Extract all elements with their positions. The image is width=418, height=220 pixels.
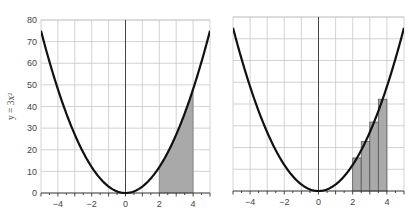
y-tick-label: 10 — [27, 167, 37, 177]
y-tick-label: 50 — [27, 80, 37, 90]
y-tick-label: 20 — [27, 145, 37, 155]
y-tick-label: 30 — [27, 123, 37, 133]
x-tick-label: −4 — [53, 199, 63, 209]
x-tick-label: 0 — [123, 199, 128, 209]
y-tick-label: 70 — [27, 37, 37, 47]
y-tick-label: 60 — [27, 58, 37, 68]
x-tick-label: 4 — [191, 199, 196, 209]
y-tick-label: 0 — [32, 188, 37, 198]
x-tick-label: −2 — [87, 199, 97, 209]
y-tick-label: 40 — [27, 102, 37, 112]
y-axis-label: y = 3x² — [6, 93, 16, 120]
x-tick-label: −2 — [279, 197, 289, 207]
x-tick-label: 0 — [316, 197, 321, 207]
figure: −4−202401020304050607080y = 3x² −4−2024 — [0, 0, 418, 220]
left-plot-area-under-curve: −4−202401020304050607080y = 3x² — [6, 15, 210, 209]
x-tick-label: 2 — [350, 197, 355, 207]
riemann-rectangle — [370, 122, 379, 191]
riemann-rectangle — [378, 99, 387, 191]
x-tick-label: 2 — [157, 199, 162, 209]
x-tick-label: −4 — [245, 197, 255, 207]
chart-canvas: −4−202401020304050607080y = 3x² −4−2024 — [0, 0, 418, 220]
y-tick-label: 80 — [27, 15, 37, 25]
x-tick-label: 4 — [384, 197, 389, 207]
right-plot-riemann-rectangles: −4−2024 — [233, 17, 404, 207]
